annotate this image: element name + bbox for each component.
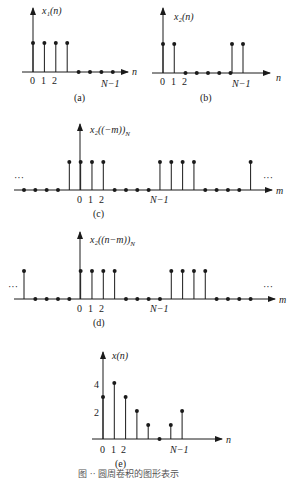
sample-dot	[33, 188, 37, 192]
sample-dot	[146, 423, 150, 427]
sample-dot	[31, 41, 35, 45]
panel-label: (d)	[93, 317, 105, 329]
sample-dot	[184, 71, 188, 75]
sample-dot	[124, 395, 128, 399]
sample-dot	[56, 188, 60, 192]
sample-dot	[112, 381, 116, 385]
sample-dot	[147, 188, 151, 192]
sample-dot	[169, 269, 173, 273]
ellipsis-right: ···	[263, 281, 273, 292]
sample-dot	[90, 160, 94, 164]
sample-dot	[135, 409, 139, 413]
sample-dot	[113, 188, 117, 192]
tick-1: 1	[41, 75, 46, 86]
panel-label: (a)	[74, 92, 85, 104]
panel-d: x₂((n−m))N m ··· ··· 0 1 2 N−1 (d)	[8, 232, 286, 329]
sample-dot	[113, 269, 117, 273]
sample-dot	[169, 160, 173, 164]
sample-dot	[226, 297, 230, 301]
sample-dot	[77, 70, 81, 74]
y-axis-label: x₂(n)	[173, 11, 194, 23]
tick-n-minus-1: N−1	[169, 444, 188, 455]
x-axis-label: m	[276, 185, 283, 196]
sample-dot	[101, 160, 105, 164]
sample-dot	[192, 160, 196, 164]
x-axis-label: n	[226, 434, 231, 445]
sample-dot	[158, 160, 162, 164]
tick-0: 0	[160, 76, 165, 87]
tick-n-minus-1: N−1	[231, 78, 250, 89]
figure-caption: 图 ·· 圆周卷积的图形表示	[78, 468, 179, 479]
sample-dot	[215, 188, 219, 192]
sample-dot	[99, 70, 103, 74]
sample-dot	[79, 160, 83, 164]
ellipsis-left: ···	[8, 281, 18, 292]
sample-dot	[88, 70, 92, 74]
sample-dot	[161, 42, 165, 46]
x-axis-label: m	[279, 294, 286, 305]
stem-series	[22, 160, 253, 192]
panel-e: x(n) n 2 4 0 1 2 N−1 (e)	[92, 350, 231, 470]
sample-dot	[158, 437, 162, 441]
sample-dot	[54, 41, 58, 45]
sample-dot	[237, 297, 241, 301]
stem-series	[31, 41, 115, 74]
sample-dot	[42, 41, 46, 45]
ellipsis-left: ···	[14, 172, 24, 183]
sample-dot	[215, 297, 219, 301]
sample-dot	[45, 188, 49, 192]
sample-dot	[249, 160, 253, 164]
sample-dot	[192, 269, 196, 273]
tick-2: 2	[52, 75, 57, 86]
tick-0: 0	[77, 194, 82, 205]
ellipsis-right: ···	[263, 172, 273, 183]
sample-dot	[90, 269, 94, 273]
tick-1: 1	[88, 303, 93, 314]
tick-0: 0	[77, 303, 82, 314]
sample-dot	[124, 188, 128, 192]
panel-a: x₁(n) n 0 1 2 N−1 (a)	[22, 5, 137, 104]
sample-dot	[226, 188, 230, 192]
sample-dot	[217, 71, 221, 75]
sample-dot	[79, 269, 83, 273]
stem-series	[161, 42, 245, 75]
stem-series	[101, 381, 184, 441]
sample-dot	[206, 71, 210, 75]
sample-dot	[195, 71, 199, 75]
panel-label: (b)	[200, 92, 212, 104]
tick-2: 2	[99, 303, 104, 314]
sample-dot	[237, 188, 241, 192]
sample-dot	[180, 409, 184, 413]
tick-0: 0	[100, 444, 105, 455]
sample-dot	[22, 269, 26, 273]
panel-label: (c)	[93, 208, 104, 220]
sample-dot	[203, 188, 207, 192]
panel-b: x₂(n) n 0 1 2 N−1 (b)	[152, 8, 281, 104]
tick-0: 0	[30, 75, 35, 86]
sample-dot	[249, 297, 253, 301]
tick-n-minus-1: N−1	[149, 303, 168, 314]
sample-dot	[111, 70, 115, 74]
sample-dot	[169, 423, 173, 427]
sample-dot	[101, 395, 105, 399]
sample-dot	[65, 41, 69, 45]
tick-n-minus-1: N−1	[100, 78, 119, 89]
sample-dot	[135, 188, 139, 192]
sample-dot	[67, 297, 71, 301]
sample-dot	[241, 42, 245, 46]
y-axis-label: x₂((−m))N	[89, 124, 130, 138]
panel-c: x₂((−m))N m ··· ··· 0 1 2 N−1 (c)	[14, 124, 283, 220]
sample-dot	[135, 297, 139, 301]
sample-dot	[33, 297, 37, 301]
sample-dot	[56, 297, 60, 301]
y-axis-label: x(n)	[111, 350, 129, 362]
x-axis-label: n	[132, 66, 137, 77]
sample-dot	[230, 42, 234, 46]
tick-1: 1	[88, 194, 93, 205]
tick-2: 2	[121, 444, 126, 455]
sample-dot	[67, 160, 71, 164]
sample-dot	[22, 188, 26, 192]
ytick-4: 4	[94, 379, 99, 390]
tick-1: 1	[111, 444, 116, 455]
sample-dot	[124, 297, 128, 301]
